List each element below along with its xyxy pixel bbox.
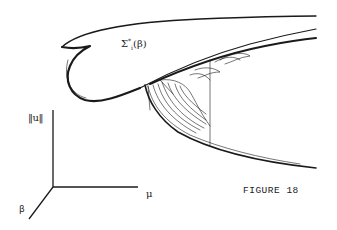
surface-label: Σ*i(β) bbox=[121, 37, 147, 51]
figure-caption: FIGURE 18 bbox=[243, 185, 299, 196]
horizontal-axis-label: μ bbox=[146, 188, 153, 199]
surface-argument: (β) bbox=[133, 38, 147, 49]
inner-upper-curve bbox=[140, 29, 316, 88]
vertical-axis-label: ‖u‖ bbox=[28, 112, 43, 123]
depth-axis-label: β bbox=[19, 204, 25, 214]
depth-axis bbox=[29, 187, 53, 219]
upper-sheet-edge bbox=[62, 16, 316, 47]
lower-fold-curve bbox=[145, 85, 316, 168]
left-fold-lobe bbox=[62, 46, 140, 101]
surface-superscript: * bbox=[128, 37, 131, 44]
